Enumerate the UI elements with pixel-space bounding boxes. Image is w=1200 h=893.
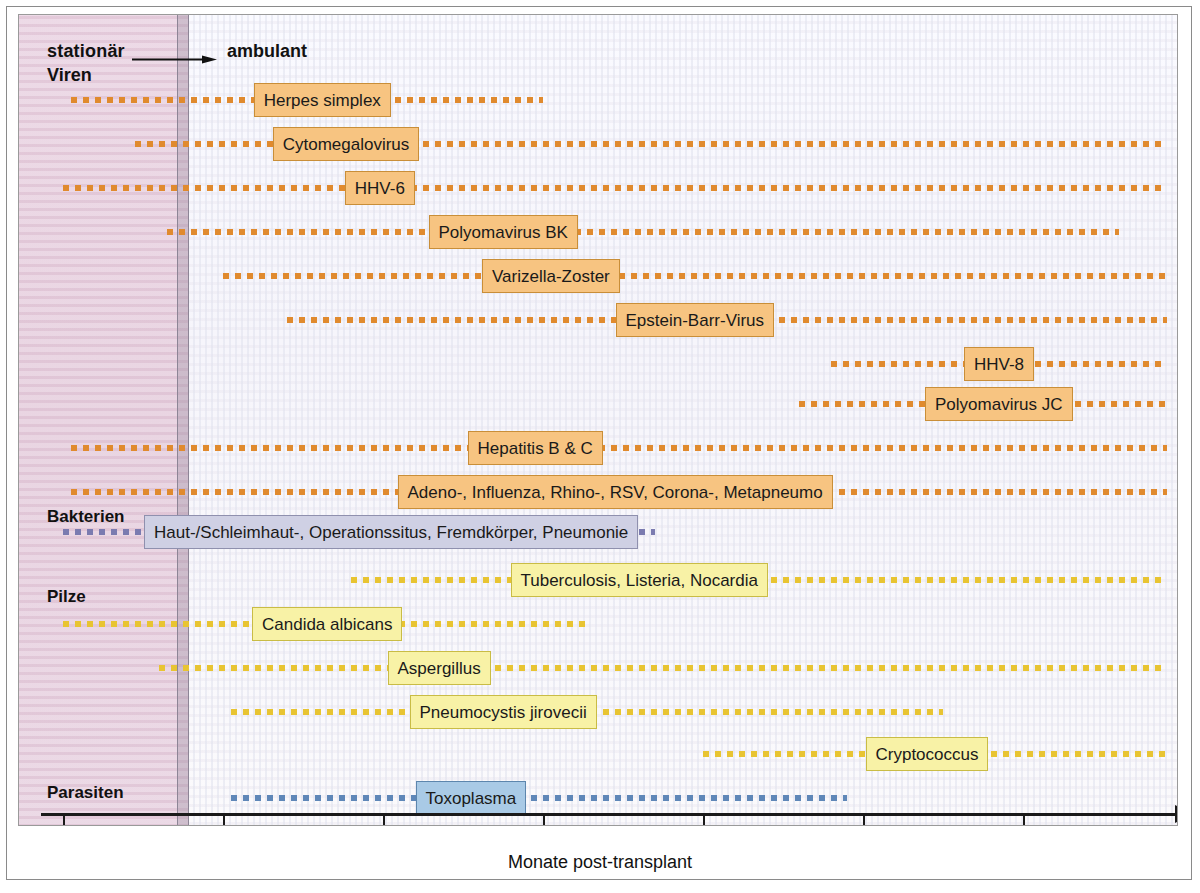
- x-axis-tick: [1023, 816, 1025, 826]
- timeline-duration-line: [63, 185, 1167, 191]
- timeline-row: Polyomavirus JC: [19, 387, 1178, 421]
- pathogen-label-chip[interactable]: Candida albicans: [252, 607, 402, 641]
- pathogen-label-chip[interactable]: Pneumocystis jirovecii: [410, 695, 597, 729]
- timeline-row: Epstein-Barr-Virus: [19, 303, 1178, 337]
- pathogen-label-chip[interactable]: Aspergillus: [388, 651, 491, 685]
- pathogen-label-chip[interactable]: HHV-6: [345, 171, 415, 205]
- timeline-row: Tuberculosis, Listeria, Nocardia: [19, 563, 1178, 597]
- timeline-row: HHV-8: [19, 347, 1178, 381]
- timeline-row: Toxoplasma: [19, 781, 1178, 815]
- timeline-row: Herpes simplex: [19, 83, 1178, 117]
- x-axis-tick: [543, 816, 545, 826]
- pathogen-label-chip[interactable]: Epstein-Barr-Virus: [616, 303, 775, 337]
- x-axis-line: [41, 813, 1178, 816]
- x-axis-title: Monate post-transplant: [0, 852, 1200, 873]
- timeline-row: Polyomavirus BK: [19, 215, 1178, 249]
- pathogen-label-chip[interactable]: HHV-8: [964, 347, 1034, 381]
- pathogen-label-chip[interactable]: Polyomavirus BK: [429, 215, 578, 249]
- timeline-row: Cryptococcus: [19, 737, 1178, 771]
- pathogen-label-chip[interactable]: Cryptococcus: [866, 737, 989, 771]
- pathogen-label-chip[interactable]: Haut-/Schleimhaut-, Operationssitus, Fre…: [144, 515, 638, 549]
- timeline-duration-line: [71, 445, 1167, 451]
- pathogen-label-chip[interactable]: Tuberculosis, Listeria, Nocardia: [511, 563, 768, 597]
- x-axis-tick: [223, 816, 225, 826]
- phase-transition-arrow-icon: [132, 55, 217, 64]
- timeline-row: Adeno-, Influenza, Rhino-, RSV, Corona-,…: [19, 475, 1178, 509]
- timeline-row: Pneumocystis jirovecii: [19, 695, 1178, 729]
- timeline-duration-line: [159, 665, 1167, 671]
- pathogen-label-chip[interactable]: Cytomegalovirus: [273, 127, 420, 161]
- phase-label-ambulant: ambulant: [227, 41, 307, 62]
- timeline-row: HHV-6: [19, 171, 1178, 205]
- timeline-duration-line: [231, 795, 847, 801]
- timeline-duration-line: [167, 229, 1119, 235]
- figure-root: stationär ambulant Viren Bakterien Pilze…: [0, 0, 1200, 893]
- timeline-row: Hepatitis B & C: [19, 431, 1178, 465]
- timeline-row: Cytomegalovirus: [19, 127, 1178, 161]
- timeline-row: Candida albicans: [19, 607, 1178, 641]
- x-axis-tick: [703, 816, 705, 826]
- timeline-row: Varizella-Zoster: [19, 259, 1178, 293]
- x-axis-tick: [863, 816, 865, 826]
- x-axis-tick: [63, 816, 65, 826]
- pathogen-label-chip[interactable]: Hepatitis B & C: [468, 431, 603, 465]
- timeline-duration-line: [223, 273, 1167, 279]
- pathogen-label-chip[interactable]: Varizella-Zoster: [482, 259, 620, 293]
- x-axis-tick: [383, 816, 385, 826]
- pathogen-label-chip[interactable]: Toxoplasma: [416, 781, 527, 815]
- x-axis-arrow-icon: [1175, 805, 1178, 823]
- plot-area: stationär ambulant Viren Bakterien Pilze…: [18, 14, 1178, 826]
- timeline-row: Aspergillus: [19, 651, 1178, 685]
- pathogen-label-chip[interactable]: Polyomavirus JC: [925, 387, 1073, 421]
- pathogen-label-chip[interactable]: Herpes simplex: [254, 83, 391, 117]
- pathogen-label-chip[interactable]: Adeno-, Influenza, Rhino-, RSV, Corona-,…: [398, 475, 833, 509]
- phase-label-stationaer: stationär: [47, 41, 125, 62]
- timeline-row: Haut-/Schleimhaut-, Operationssitus, Fre…: [19, 515, 1178, 549]
